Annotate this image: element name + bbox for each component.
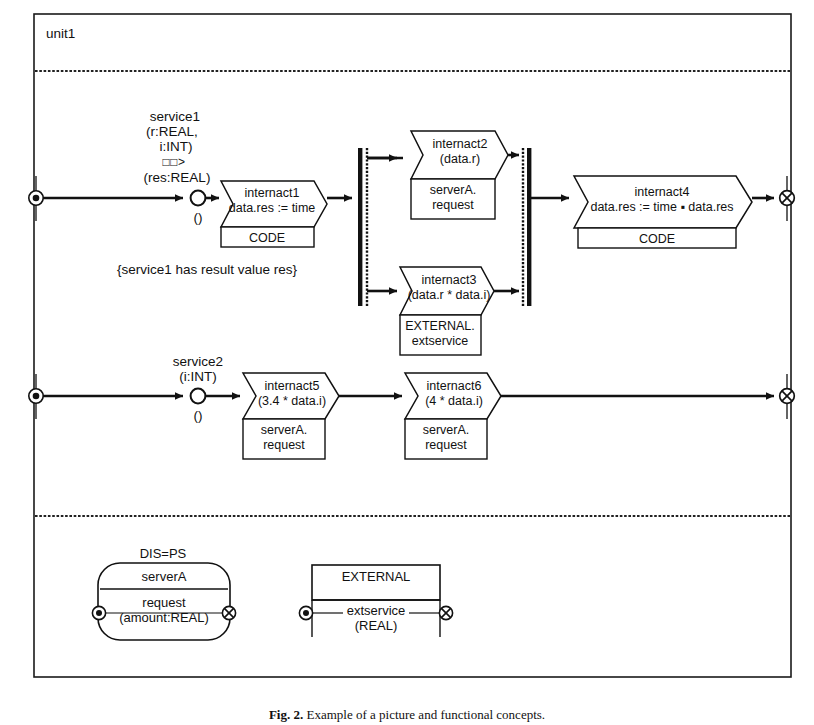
service2-name: service2 <box>173 354 223 369</box>
internact4-title: internact4 <box>635 185 690 199</box>
service2-port-label: () <box>194 408 203 423</box>
action-internact2[interactable]: internact2 (data.r) serverA. request <box>411 131 508 219</box>
service2-end-terminator <box>780 374 795 419</box>
service1-port <box>191 191 206 206</box>
service1-arrow-symbol: □□> <box>162 155 185 169</box>
internact5-body-line2: request <box>263 438 305 452</box>
internact6-body-line2: request <box>425 438 467 452</box>
unit-label: unit1 <box>46 26 75 41</box>
internact3-expr: (data.r * data.i) <box>408 288 491 302</box>
internact5-expr: (3.4 * data.i) <box>258 394 326 408</box>
service1-note: {service1 has result value res} <box>117 262 298 277</box>
internact6-body-line1: serverA. <box>423 423 470 437</box>
resource-serverA[interactable]: serverA request (amount:REAL) <box>92 563 235 640</box>
figure-caption: Fig. 2. Example of a picture and functio… <box>0 704 814 725</box>
server-stereotype: DIS=PS <box>140 546 187 561</box>
external-end-port <box>439 606 452 619</box>
service1-param-1: (r:REAL, <box>146 124 198 139</box>
service2-start-terminator <box>29 374 43 419</box>
service1-port-label: () <box>194 210 203 225</box>
sync-bar-right <box>523 148 531 306</box>
internact1-body: CODE <box>249 231 285 245</box>
internact4-expr: data.res := time ▪ data.res <box>590 200 733 214</box>
internact3-body-line1: EXTERNAL. <box>405 319 474 333</box>
internact5-body-line1: serverA. <box>261 423 308 437</box>
service1-name: service1 <box>150 109 200 124</box>
service2-port <box>191 389 206 404</box>
service1-param-2: i:INT) <box>160 139 193 154</box>
internact5-title: internact5 <box>265 379 320 393</box>
serverA-start-port <box>92 606 105 619</box>
internact6-title: internact6 <box>427 379 482 393</box>
action-internact1[interactable]: internact1 data.res := time CODE <box>221 181 327 247</box>
service1-result: (res:REAL) <box>144 170 211 185</box>
action-internact4[interactable]: internact4 data.res := time ▪ data.res C… <box>574 176 752 248</box>
internact3-body-line2: extservice <box>412 334 468 348</box>
internact2-body-line1: serverA. <box>430 183 477 197</box>
external-name: EXTERNAL <box>342 569 411 584</box>
serverA-end-port <box>222 606 235 619</box>
internact1-title: internact1 <box>245 186 300 200</box>
internact2-expr: (data.r) <box>440 152 480 166</box>
external-start-port <box>299 606 312 619</box>
serverA-signature: (amount:REAL) <box>119 610 209 625</box>
internact4-body: CODE <box>639 232 675 246</box>
service1-end-terminator <box>780 176 795 221</box>
caption-prefix: Fig. 2. <box>269 707 303 722</box>
internact6-expr: (4 * data.i) <box>425 394 483 408</box>
action-internact3[interactable]: internact3 (data.r * data.i) EXTERNAL. e… <box>400 267 494 355</box>
serverA-operation: request <box>142 595 186 610</box>
internact2-title: internact2 <box>433 137 488 151</box>
internact3-title: internact3 <box>422 273 477 287</box>
external-signature: (REAL) <box>355 618 398 633</box>
action-internact5[interactable]: internact5 (3.4 * data.i) serverA. reque… <box>243 373 339 459</box>
external-operation: extservice <box>347 603 406 618</box>
caption-text: Example of a picture and functional conc… <box>306 707 545 722</box>
service1-start-terminator <box>29 176 43 221</box>
internact2-body-line2: request <box>432 198 474 212</box>
action-internact6[interactable]: internact6 (4 * data.i) serverA. request <box>405 373 501 459</box>
service2-param-1: (i:INT) <box>179 369 217 384</box>
internact1-expr: data.res := time <box>229 201 316 215</box>
sync-bar-left <box>358 148 367 306</box>
serverA-name: serverA <box>142 569 187 584</box>
unit-diagram: unit1 service1 (r:REAL, i:INT) □□> (res:… <box>0 0 814 725</box>
figure-canvas: unit1 service1 (r:REAL, i:INT) □□> (res:… <box>0 0 814 725</box>
resource-external[interactable]: EXTERNAL extservice (REAL) <box>299 565 452 637</box>
